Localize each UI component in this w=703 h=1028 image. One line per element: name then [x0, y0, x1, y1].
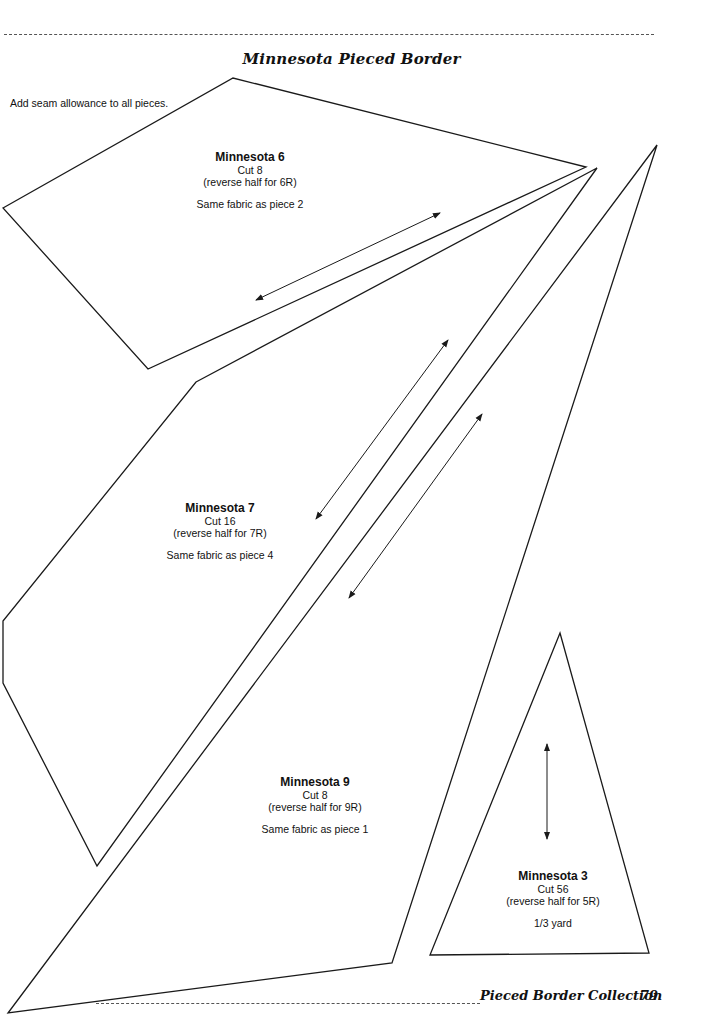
piece-label-6: Minnesota 6 Cut 8 (reverse half for 6R) … — [180, 150, 320, 210]
piece-reverse: (reverse half for 9R) — [235, 801, 395, 813]
piece-fabric: 1/3 yard — [478, 917, 628, 929]
cut-line-bottom — [96, 1003, 480, 1004]
page-number: 79 — [640, 988, 658, 1003]
piece-cut: Cut 8 — [180, 164, 320, 176]
piece-name: Minnesota 6 — [180, 150, 320, 164]
piece-name: Minnesota 3 — [478, 869, 628, 883]
piece-cut: Cut 16 — [140, 515, 300, 527]
piece-6-outline — [3, 78, 586, 369]
footer-book-title: Pieced Border Collection — [480, 988, 662, 1003]
piece-reverse: (reverse half for 7R) — [140, 527, 300, 539]
grain-arrow-7 — [316, 340, 448, 519]
piece-fabric: Same fabric as piece 2 — [180, 198, 320, 210]
piece-reverse: (reverse half for 5R) — [478, 895, 628, 907]
piece-name: Minnesota 7 — [140, 501, 300, 515]
piece-label-9: Minnesota 9 Cut 8 (reverse half for 9R) … — [235, 775, 395, 835]
piece-fabric: Same fabric as piece 4 — [140, 549, 300, 561]
piece-fabric: Same fabric as piece 1 — [235, 823, 395, 835]
piece-label-3: Minnesota 3 Cut 56 (reverse half for 5R)… — [478, 869, 628, 929]
grain-arrow-6 — [256, 213, 440, 300]
grain-arrow-9 — [349, 414, 482, 598]
piece-name: Minnesota 9 — [235, 775, 395, 789]
piece-cut: Cut 56 — [478, 883, 628, 895]
piece-label-7: Minnesota 7 Cut 16 (reverse half for 7R)… — [140, 501, 300, 561]
piece-cut: Cut 8 — [235, 789, 395, 801]
piece-reverse: (reverse half for 6R) — [180, 176, 320, 188]
